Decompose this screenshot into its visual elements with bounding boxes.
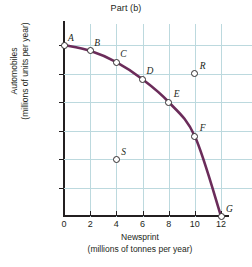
data-point-label-e: E: [174, 89, 180, 99]
data-point-f[interactable]: [191, 133, 198, 140]
data-point-a[interactable]: [61, 42, 68, 49]
data-point-label-s: S: [121, 147, 126, 157]
data-point-label-f: F: [200, 123, 206, 133]
data-point-label-d: D: [147, 66, 154, 76]
ppf-curve-layer: [0, 0, 252, 267]
data-point-label-a: A: [68, 33, 74, 43]
data-point-d[interactable]: [139, 76, 146, 83]
data-point-g[interactable]: [218, 213, 225, 220]
x-axis-label-line1: Newsprint: [40, 232, 240, 244]
x-axis-label: Newsprint (millions of tonnes per year): [40, 232, 240, 255]
data-point-c[interactable]: [113, 59, 120, 66]
data-point-label-b: B: [94, 38, 100, 48]
data-point-b[interactable]: [87, 47, 94, 54]
data-point-s[interactable]: [113, 156, 120, 163]
data-point-label-r: R: [200, 61, 206, 71]
data-point-e[interactable]: [165, 99, 172, 106]
data-point-label-c: C: [120, 49, 126, 59]
chart-figure: Part (b) 0.51.01.52.02.53.0024681012 ABC…: [0, 0, 252, 267]
y-axis-label-line1: Automobiles: [9, 1, 20, 141]
y-axis-label: Automobiles (millions of units per year): [9, 1, 35, 141]
data-point-label-g: G: [226, 204, 233, 214]
x-axis-label-line2: (millions of tonnes per year): [40, 244, 240, 256]
y-axis-label-line2: (millions of units per year): [20, 1, 31, 141]
